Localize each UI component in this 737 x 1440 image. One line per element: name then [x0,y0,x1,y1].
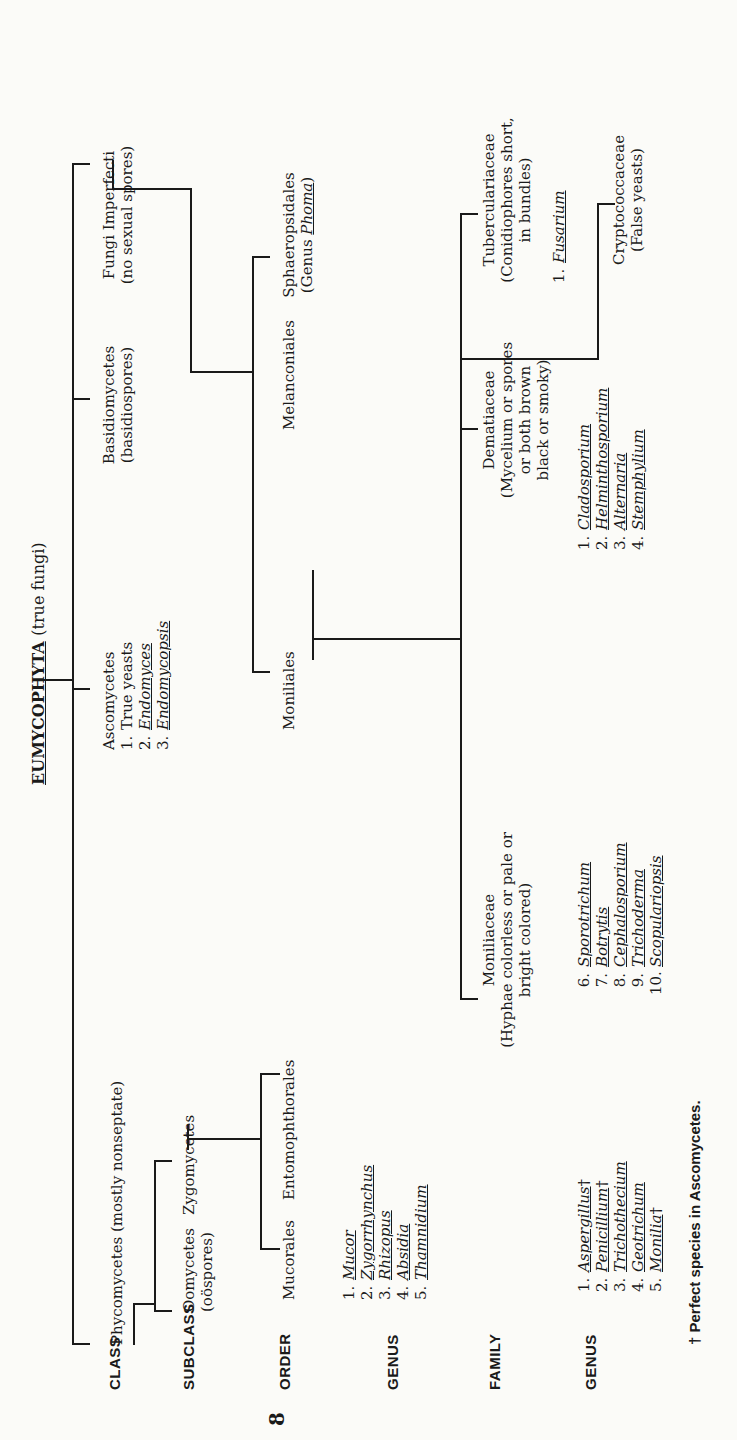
genus-item: 3.Rhizopus [376,1165,394,1300]
basidio-note: (basidiospores) [118,330,136,480]
class-ascomycetes: Ascomycetes 1.True yeasts 2.Endomyces 3.… [100,621,172,750]
tick-tubercul [460,213,478,215]
order-sphaeropsidales: Sphaeropsidales (Genus Phoma) [280,150,316,320]
order-melanconiales: Melanconiales [280,320,298,430]
monil-drop [312,638,462,640]
subclass-bar [154,1162,156,1312]
asco-item-2: 2.Endomyces [136,621,154,750]
genus-item: 4.Stemphylium [629,388,647,550]
genus-item: 4.Absidia [394,1165,412,1300]
tick-moniliales [252,671,270,673]
order-bar-zygo [260,1075,262,1250]
basidio-label: Basidiomycetes [100,330,118,480]
genus-item: 1.Cladosporium [575,388,593,550]
diagram-page: EUMYCOPHYTA (true fungi) CLASS SUBCLASS … [0,0,737,1440]
class-fungi-imperfecti: Fungi Imperfecti (no sexual spores) [100,130,136,300]
family-dematiaceae: Dematiaceae (Mycelium or spores or both … [480,320,552,520]
genus-item: 1.Mucor [340,1165,358,1300]
genus-item: 2.Zygorrhynchus [358,1165,376,1300]
fi-note: (no sexual spores) [118,130,136,300]
genus-item: 4.Geotrichum [629,1161,647,1292]
page-number: 8 [268,1412,286,1426]
tubercul-genera-list: 1.Fusarium [550,190,568,283]
class-bar [72,165,74,1345]
tubercul-label: Tuberculariaceae [480,100,498,300]
ascomycetes-label: Ascomycetes [100,621,118,750]
moniliaceae-genera-list-a: 1.Aspergillus† 2.Penicillium† 3.Trichoth… [575,1161,665,1292]
genus-item: 5.Thamnidium [412,1165,430,1300]
rank-order: ORDER [276,1333,294,1390]
genus-item: 5.Monilia† [647,1161,665,1292]
mucorales-genera-list: 1.Mucor 2.Zygorrhynchus 3.Rhizopus 4.Abs… [340,1165,430,1300]
phyco-link [133,1305,135,1345]
moniliaceae-desc-2: bright colored) [516,800,534,1080]
class-phycomycetes: Phycomycetes (mostly nonseptate) [108,1081,126,1345]
genus-item: 8.Cephalosporium [611,842,629,995]
rank-genus-2: GENUS [582,1334,600,1390]
moniliaceae-desc-1: (Hyphae colorless or pale or [498,800,516,1080]
sphaerop-note: (Genus Phoma) [298,150,316,320]
title-note: (true fungi) [29,542,48,635]
genus-item: 10.Scopulariopsis [647,842,665,995]
tick-oomy [154,1310,172,1312]
genus-item: 7.Botrytis [593,842,611,995]
tick-phyco [72,1343,90,1345]
rank-genus: GENUS [384,1334,402,1390]
moniliaceae-genera-list-b: 6.Sporotrichum 7.Botrytis 8.Cephalospori… [575,842,665,995]
crypto-link [597,205,599,360]
subclass-oomycetes: Oomycetes (oöspores) [180,1228,216,1312]
genus-item: 1.Aspergillus† [575,1161,593,1292]
oomycetes-label: Oomycetes [180,1228,198,1312]
family-moniliaceae: Moniliaceae (Hyphae colorless or pale or… [480,800,534,1080]
tick-entomo [260,1073,280,1075]
family-bar [460,215,462,1000]
asco-item-1: 1.True yeasts [118,621,136,750]
phyco-drop [133,1303,155,1305]
oomycetes-note: (oöspores) [198,1228,216,1312]
order-moniliales: Moniliales [280,651,298,730]
tick-moniliaceae [460,998,478,1000]
rank-family: FAMILY [486,1333,504,1390]
tick-asco [72,688,90,690]
subclass-zygomycetes: Zygomycetes [180,1115,198,1215]
footnote: † Perfect species in Ascomycetes. [686,1100,704,1345]
fi-label: Fungi Imperfecti [100,130,118,300]
tick-fungi-imp [72,163,90,165]
zygo-drop [187,1138,262,1140]
tick-sphaerop [252,256,270,258]
fi-drop-2 [190,371,253,373]
title-name: EUMYCOPHYTA [29,641,48,785]
rank-subclass: SUBCLASS [180,1303,198,1390]
dematiaceae-desc-2: or both brown [516,320,534,520]
order-bar-fi [252,258,254,673]
diagram-title: EUMYCOPHYTA (true fungi) [30,542,48,785]
fi-horiz [190,188,192,373]
tick-mucorales [260,1248,280,1250]
moniliaceae-label: Moniliaceae [480,800,498,1080]
tick-basidio [72,398,90,400]
genus-item: 3.Alternaria [611,388,629,550]
dematiaceae-desc-1: (Mycelium or spores [498,320,516,520]
tubercul-desc-1: (Conidiophores short, [498,100,516,300]
crypto-desc: (False yeasts) [628,110,646,290]
dematiaceae-label: Dematiaceae [480,320,498,520]
order-mucorales: Mucorales [280,1220,298,1300]
monil-link [312,570,314,660]
sphaerop-label: Sphaeropsidales [280,150,298,320]
fi-drop [112,188,192,190]
genus-item: 2.Helminthosporium [593,388,611,550]
genus-item: 9.Trichoderma [629,842,647,995]
order-entomophthorales: Entomophthorales [280,1060,298,1200]
genus-item: 6.Sporotrichum [575,842,593,995]
crypto-label: Cryptococcaceae [610,110,628,290]
asco-item-3: 3.Endomycopsis [154,621,172,750]
fi-link [112,160,114,190]
genus-item: 2.Penicillium† [593,1161,611,1292]
class-basidiomycetes: Basidiomycetes (basidiospores) [100,330,136,480]
root-stem [40,679,74,681]
tubercul-desc-2: in bundles) [516,100,534,300]
family-tuberculariaceae: Tuberculariaceae (Conidiophores short, i… [480,100,534,300]
dematiaceae-desc-3: black or smoky) [534,320,552,520]
tick-dematiaceae [460,428,478,430]
tick-zygo [154,1160,172,1162]
